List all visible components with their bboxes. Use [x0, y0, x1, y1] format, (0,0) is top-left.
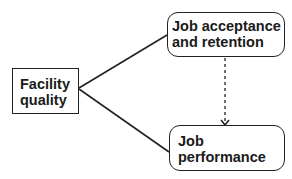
node-label-line: and retention [172, 34, 284, 50]
node-label-line: Job acceptance [172, 18, 284, 34]
edge-facility-to-acceptance [79, 35, 167, 88]
node-label-line: quality [20, 92, 78, 108]
edge-facility-to-performance [79, 89, 169, 152]
node-label-line: performance [178, 149, 284, 165]
node-job-performance: Job performance [169, 125, 285, 171]
node-facility-quality: Facility quality [12, 68, 79, 114]
node-job-acceptance-retention: Job acceptance and retention [167, 12, 285, 57]
node-label-line: Facility [20, 76, 78, 92]
node-label-line: Job [178, 133, 284, 149]
